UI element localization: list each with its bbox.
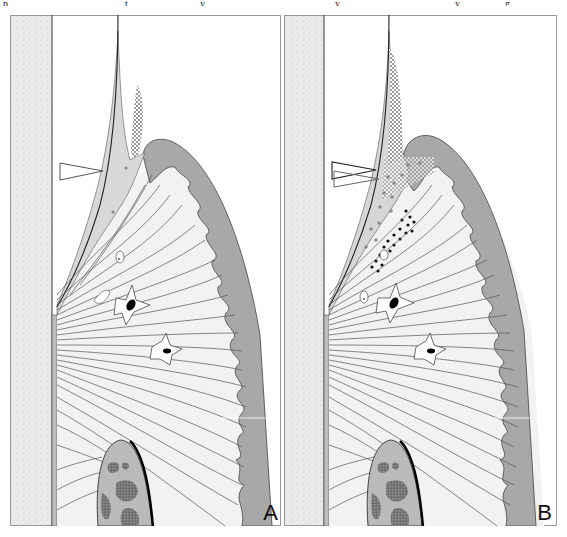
panel-b-illustration [284,15,558,526]
panel-label: B [537,500,552,526]
cut-off-text-line: p t y y y g [0,0,567,6]
cut-glyph: y [200,0,205,6]
cut-glyph: g [505,0,510,6]
epithelial-cell [116,251,124,263]
tooth-enamel [285,16,324,525]
cut-glyph: p [3,0,8,6]
cut-glyph: t [125,0,128,6]
panel-b: B [284,15,556,526]
tooth-enamel [11,16,52,525]
panel-a: A [10,15,282,526]
epithelial-cell [360,291,368,303]
cut-glyph: y [335,0,340,6]
cut-glyph: y [455,0,460,6]
panel-label: A [263,500,278,526]
panel-a-illustration [10,15,282,526]
